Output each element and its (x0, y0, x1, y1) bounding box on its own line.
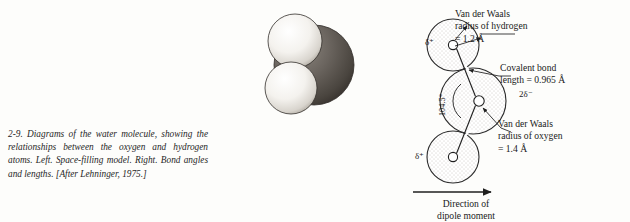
label-covalent-bond-length: Covalent bond length = 0.965 Å (500, 62, 626, 87)
bond-angle-label: 104.5° (438, 94, 447, 116)
label-vdw-radius-oxygen: Van der Waals radius of oxygen = 1.4 Å (498, 118, 618, 155)
label-dipole-direction: Direction of dipole moment (406, 198, 526, 222)
figure-page: 2-9. Diagrams of the water molecule, sho… (0, 0, 630, 222)
label-vdw-radius-hydrogen: Van der Waals radius of hydrogen = 1.2 Å (455, 8, 565, 45)
space-filling-model (248, 10, 380, 120)
label-2-delta-minus: 2δ⁻ (519, 88, 533, 100)
figure-number: 2-9. (8, 129, 23, 139)
hydrogen-sphere-lower (265, 62, 317, 114)
label-delta-plus-bottom: δ⁺ (415, 150, 424, 162)
label-delta-plus-top: δ⁺ (425, 36, 434, 48)
figure-caption-text: Diagrams of the water molecule, showing … (8, 129, 208, 179)
figure-caption: 2-9. Diagrams of the water molecule, sho… (8, 128, 208, 181)
hydrogen-sphere-upper (268, 14, 322, 68)
